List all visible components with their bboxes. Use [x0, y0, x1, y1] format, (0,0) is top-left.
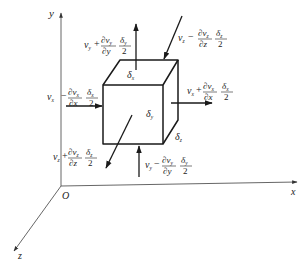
svg-text:2: 2: [183, 166, 188, 176]
z-axis-label: z: [17, 250, 22, 261]
velocity-cube-diagram: y x z O δx δy δz vy + ∂vy ∂y δy 2 vz − ∂…: [0, 0, 301, 264]
z-axis: [14, 186, 61, 251]
svg-text:−: −: [154, 158, 160, 169]
svg-text:vy: vy: [84, 39, 91, 51]
formula-right: vx + ∂vx ∂x δx 2: [187, 81, 233, 102]
x-axis: [61, 182, 297, 186]
svg-text:∂vz: ∂vz: [68, 147, 79, 158]
svg-text:+: +: [196, 84, 202, 95]
formula-bottom: vy − ∂vy ∂y δy 2: [145, 155, 192, 176]
diagram-canvas: y x z O δx δy δz vy + ∂vy ∂y δy 2 vz − ∂…: [0, 0, 301, 264]
svg-text:δy: δy: [181, 155, 188, 166]
svg-text:∂y: ∂y: [102, 46, 110, 56]
svg-text:+: +: [94, 38, 100, 49]
svg-text:∂vz: ∂vz: [198, 28, 209, 39]
svg-text:δz: δz: [86, 147, 93, 158]
formula-back: vz − ∂vz ∂z δz 2: [178, 28, 227, 49]
y-axis-label: y: [48, 7, 54, 19]
formula-front: vz + ∂vz ∂z δz 2: [53, 147, 97, 168]
svg-text:∂z: ∂z: [69, 158, 77, 168]
svg-text:2: 2: [89, 98, 94, 108]
svg-text:vx: vx: [47, 91, 54, 103]
svg-text:δx: δx: [87, 87, 94, 98]
svg-text:−: −: [188, 31, 194, 42]
svg-text:2: 2: [224, 92, 229, 102]
cube-front-face: [103, 85, 163, 144]
svg-text:vx: vx: [187, 85, 194, 97]
svg-text:∂vx: ∂vx: [203, 81, 214, 92]
svg-text:∂z: ∂z: [199, 39, 207, 49]
svg-text:∂vx: ∂vx: [68, 87, 79, 98]
formula-left: vx − ∂vx ∂x δx 2: [47, 87, 98, 108]
svg-text:∂x: ∂x: [69, 98, 77, 108]
svg-text:δz: δz: [216, 28, 223, 39]
svg-text:2: 2: [218, 39, 223, 49]
svg-text:vz: vz: [53, 151, 60, 163]
top-face-delta: δx: [127, 69, 135, 81]
svg-text:−: −: [61, 90, 67, 101]
svg-text:2: 2: [88, 158, 93, 168]
x-axis-label: x: [290, 186, 296, 197]
svg-text:∂y: ∂y: [163, 166, 171, 176]
side-face-delta: δz: [175, 131, 183, 143]
origin-label: O: [62, 190, 69, 201]
arrow-front-out: [106, 115, 132, 168]
svg-text:δy: δy: [120, 35, 127, 46]
svg-text:vy: vy: [145, 159, 152, 171]
axes: y x z O: [14, 7, 297, 261]
svg-text:∂x: ∂x: [204, 92, 212, 102]
svg-text:δx: δx: [222, 81, 229, 92]
svg-text:2: 2: [122, 46, 127, 56]
formula-top: vy + ∂vy ∂y δy 2: [84, 35, 131, 56]
svg-text:∂vy: ∂vy: [162, 155, 173, 166]
svg-text:vz: vz: [178, 32, 185, 44]
cube-top-face: [103, 60, 178, 85]
front-face-delta: δy: [146, 108, 154, 120]
svg-text:∂vy: ∂vy: [101, 35, 112, 46]
control-volume-cube: δx δy δz: [103, 60, 183, 144]
